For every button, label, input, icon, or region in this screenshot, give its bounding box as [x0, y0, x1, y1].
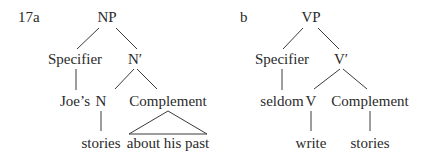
example-label: 17a — [18, 9, 40, 25]
branch-np-nbar — [116, 28, 137, 49]
branch-vbar-v — [314, 69, 340, 89]
node-complement-phrase: about his past — [127, 135, 210, 151]
node-specifier-word: Joe’s — [60, 93, 90, 109]
node-n: N — [96, 93, 107, 109]
node-vp: VP — [301, 9, 320, 25]
node-specifier-word: seldom — [260, 93, 304, 109]
node-head-word: write — [296, 135, 327, 151]
example-label: b — [240, 9, 248, 25]
node-np: NP — [97, 9, 116, 25]
node-complement: Complement — [129, 93, 207, 109]
complement-triangle — [129, 111, 207, 134]
node-complement-phrase: stories — [350, 135, 389, 151]
node-head-word: stories — [81, 135, 120, 151]
node-nbar: N′ — [128, 51, 142, 67]
tree-17a: 17a NP Specifier N′ Joe’s N Complement s… — [18, 9, 210, 151]
branch-nbar-n — [115, 69, 134, 89]
node-specifier: Specifier — [48, 51, 102, 67]
branch-vbar-complement — [343, 69, 367, 89]
syntax-tree-diagram: 17a NP Specifier N′ Joe’s N Complement s… — [0, 0, 423, 160]
node-complement: Complement — [331, 93, 409, 109]
node-v: V — [306, 93, 317, 109]
branch-np-specifier — [77, 28, 99, 49]
node-vbar: V′ — [334, 51, 348, 67]
tree-b: b VP Specifier V′ seldom V Complement wr… — [240, 9, 410, 151]
branch-nbar-complement — [137, 69, 157, 89]
branch-vp-vbar — [318, 28, 339, 49]
branch-vp-specifier — [283, 28, 303, 49]
node-specifier: Specifier — [255, 51, 309, 67]
